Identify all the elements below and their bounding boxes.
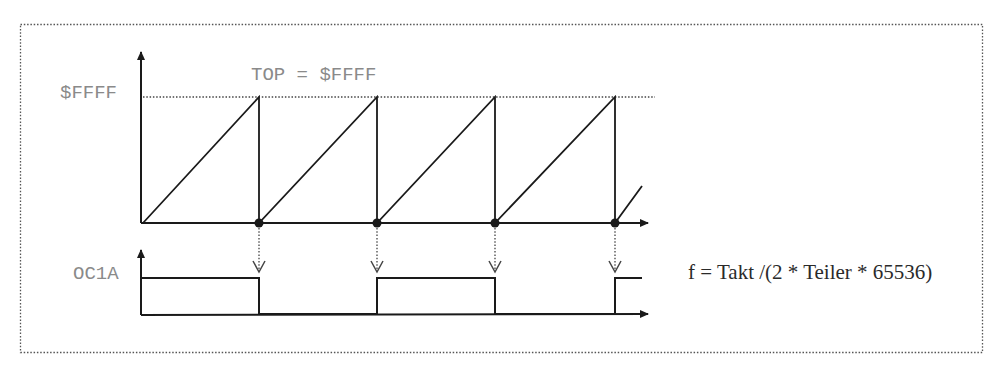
trigger-arrow [371,228,383,272]
oc1a-graph [141,250,648,315]
trigger-arrow [489,228,501,272]
overflow-dot [611,219,620,228]
top-annotation: TOP = $FFFF [251,64,376,86]
counter-graph [141,52,648,223]
oc1a-waveform [141,278,642,314]
overflow-dot [373,219,382,228]
trigger-arrows [253,228,621,272]
signal-name-label: OC1A [73,263,119,285]
trigger-arrow [609,228,621,272]
counter-sawtooth [143,97,642,223]
frequency-formula: f = Takt /(2 * Teiler * 65536) [688,260,932,284]
overflow-dot [255,219,264,228]
overflow-dot [491,219,500,228]
y-max-label: $FFFF [60,82,117,104]
timer-diagram: $FFFF TOP = $FFFF OC1A f = Takt /(2 * Te… [0,0,1003,370]
trigger-arrow [253,228,265,272]
diagram-frame [21,25,983,353]
